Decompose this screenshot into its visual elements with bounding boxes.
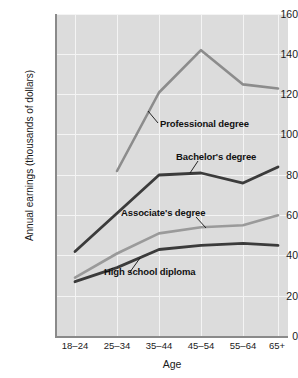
- y-tick-140: 140: [250, 49, 298, 59]
- gridline-x-35-44: [159, 14, 160, 336]
- y-axis-line: [55, 14, 57, 336]
- x-axis-title: Age: [56, 358, 288, 370]
- y-axis-title: Annual earnings (thousands of dollars): [24, 31, 35, 281]
- y-tick-120: 120: [250, 89, 298, 99]
- x-tick-65plus: 65+: [257, 340, 297, 351]
- x-tick-45-54: 45–54: [178, 340, 224, 351]
- y-tick-80: 80: [250, 170, 298, 180]
- y-tick-160: 160: [250, 9, 298, 19]
- gridline-x-25-34: [117, 14, 118, 336]
- x-tick-25-34: 25–34: [94, 340, 140, 351]
- series-label-high-school-diploma: High school diploma: [104, 266, 196, 277]
- x-tick-18-24: 18–24: [52, 340, 98, 351]
- y-tick-100: 100: [250, 129, 298, 139]
- gridline-x-55-64: [243, 14, 244, 336]
- earnings-by-age-line-chart: 160 140 120 100 80 60 40 20 0 18–24 25–3…: [0, 0, 298, 378]
- y-tick-60: 60: [250, 210, 298, 220]
- x-tick-35-44: 35–44: [136, 340, 182, 351]
- series-label-professional-degree: Professional degree: [160, 118, 249, 129]
- gridline-x-45-54: [201, 14, 202, 336]
- series-label-bachelors-degree: Bachelor's degree: [176, 151, 256, 162]
- y-tick-40: 40: [250, 250, 298, 260]
- series-label-associates-degree: Associate's degree: [121, 207, 205, 218]
- gridline-x-18-24: [75, 14, 76, 336]
- y-tick-20: 20: [250, 291, 298, 301]
